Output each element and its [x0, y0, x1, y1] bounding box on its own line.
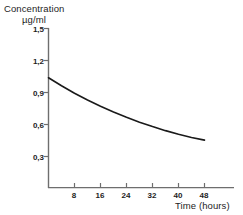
concentration-time-chart: Concentration µg/ml Time (hours) 1,5 1,2…: [0, 0, 243, 215]
concentration-curve: [49, 78, 205, 140]
plot-area: [0, 0, 243, 215]
